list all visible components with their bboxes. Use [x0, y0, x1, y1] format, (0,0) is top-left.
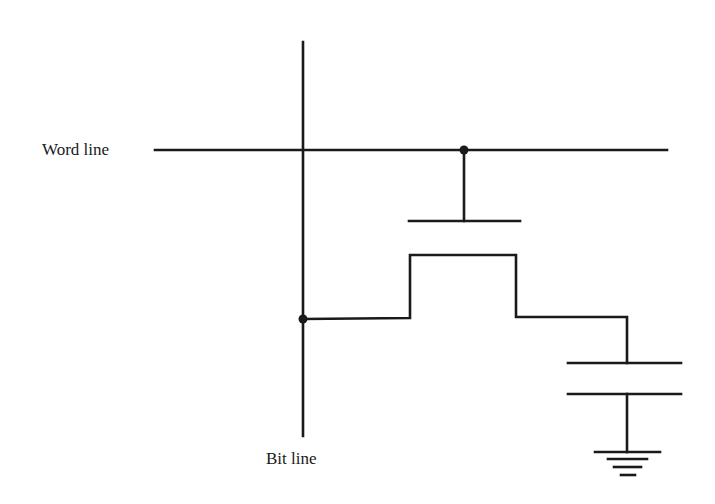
bit-line-label: Bit line: [266, 449, 317, 469]
ground-icon: [595, 452, 660, 475]
circuit-schematic: [0, 0, 715, 504]
bit-line-junction-dot: [299, 315, 308, 324]
dram-cell-diagram: Word line Bit line: [0, 0, 715, 504]
transistor-channel-path: [303, 255, 627, 363]
word-line-label: Word line: [42, 140, 109, 160]
word-line-junction-dot: [460, 146, 469, 155]
